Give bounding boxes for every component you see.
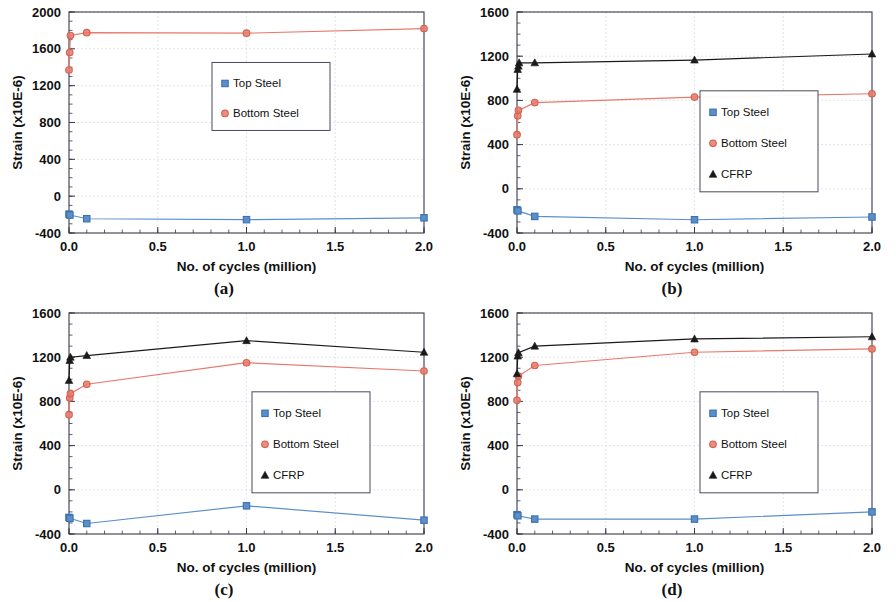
svg-text:0.0: 0.0 — [508, 239, 526, 254]
svg-text:1.0: 1.0 — [685, 239, 703, 254]
svg-text:400: 400 — [39, 438, 61, 453]
svg-text:0.0: 0.0 — [508, 540, 526, 555]
svg-text:0.5: 0.5 — [149, 540, 167, 555]
svg-text:-400: -400 — [35, 527, 61, 542]
svg-text:Top Steel: Top Steel — [233, 77, 281, 89]
svg-text:0.5: 0.5 — [597, 540, 615, 555]
svg-text:2.0: 2.0 — [415, 540, 433, 555]
svg-text:1600: 1600 — [480, 5, 509, 20]
svg-text:0.0: 0.0 — [60, 540, 78, 555]
svg-text:0: 0 — [54, 189, 61, 204]
svg-text:400: 400 — [487, 438, 509, 453]
svg-text:1200: 1200 — [32, 350, 61, 365]
svg-text:1.5: 1.5 — [774, 239, 792, 254]
svg-text:0: 0 — [54, 482, 61, 497]
svg-text:2.0: 2.0 — [863, 239, 881, 254]
svg-text:No. of cycles (million): No. of cycles (million) — [177, 259, 317, 274]
svg-text:No. of cycles (million): No. of cycles (million) — [177, 560, 317, 575]
svg-text:No. of cycles (million): No. of cycles (million) — [625, 259, 765, 274]
svg-text:Strain (x10E-6): Strain (x10E-6) — [458, 376, 473, 471]
svg-text:-400: -400 — [483, 226, 509, 241]
svg-text:0.5: 0.5 — [149, 239, 167, 254]
svg-text:Bottom Steel: Bottom Steel — [233, 107, 299, 119]
svg-text:2000: 2000 — [32, 5, 61, 20]
svg-text:1.5: 1.5 — [774, 540, 792, 555]
svg-text:Top Steel: Top Steel — [721, 106, 769, 118]
svg-text:400: 400 — [487, 137, 509, 152]
panel-b-plot: -4000400800120016000.00.51.01.52.0No. of… — [448, 0, 896, 301]
svg-text:Top Steel: Top Steel — [721, 407, 769, 419]
svg-text:1600: 1600 — [32, 41, 61, 56]
panel-c-plot: -4000400800120016000.00.51.01.52.0No. of… — [0, 301, 448, 602]
svg-text:800: 800 — [487, 394, 509, 409]
svg-text:1.0: 1.0 — [237, 239, 255, 254]
svg-text:1600: 1600 — [480, 306, 509, 321]
panel-a-plot: -40004008001200160020000.00.51.01.52.0No… — [0, 0, 448, 301]
svg-text:CFRP: CFRP — [721, 168, 753, 180]
svg-text:Strain (x10E-6): Strain (x10E-6) — [10, 75, 25, 170]
svg-text:Bottom Steel: Bottom Steel — [721, 438, 787, 450]
svg-text:No. of cycles (million): No. of cycles (million) — [625, 560, 765, 575]
svg-text:2.0: 2.0 — [863, 540, 881, 555]
panel-c: -4000400800120016000.00.51.01.52.0No. of… — [0, 301, 448, 602]
svg-text:CFRP: CFRP — [273, 469, 305, 481]
svg-text:0.0: 0.0 — [60, 239, 78, 254]
svg-text:0: 0 — [502, 482, 509, 497]
svg-text:0.5: 0.5 — [597, 239, 615, 254]
svg-text:Strain (x10E-6): Strain (x10E-6) — [458, 75, 473, 170]
svg-text:Top Steel: Top Steel — [273, 407, 321, 419]
svg-text:1.5: 1.5 — [326, 239, 344, 254]
svg-text:Bottom Steel: Bottom Steel — [721, 137, 787, 149]
panel-a: -40004008001200160020000.00.51.01.52.0No… — [0, 0, 448, 301]
svg-text:1200: 1200 — [32, 78, 61, 93]
svg-text:400: 400 — [39, 152, 61, 167]
svg-text:1200: 1200 — [480, 350, 509, 365]
panel-a-caption: (a) — [0, 279, 448, 299]
svg-text:-400: -400 — [483, 527, 509, 542]
svg-text:1600: 1600 — [32, 306, 61, 321]
panel-d: -4000400800120016000.00.51.01.52.0No. of… — [448, 301, 896, 602]
svg-text:1.0: 1.0 — [237, 540, 255, 555]
panel-c-caption: (c) — [0, 580, 448, 600]
panel-d-caption: (d) — [448, 580, 896, 600]
svg-text:-400: -400 — [35, 226, 61, 241]
panel-b: -4000400800120016000.00.51.01.52.0No. of… — [448, 0, 896, 301]
svg-text:Strain (x10E-6): Strain (x10E-6) — [10, 376, 25, 471]
panel-b-caption: (b) — [448, 279, 896, 299]
svg-text:1.0: 1.0 — [685, 540, 703, 555]
svg-text:2.0: 2.0 — [415, 239, 433, 254]
strain-vs-cycles-figure: -40004008001200160020000.00.51.01.52.0No… — [0, 0, 896, 602]
svg-text:Bottom Steel: Bottom Steel — [273, 438, 339, 450]
panel-d-plot: -4000400800120016000.00.51.01.52.0No. of… — [448, 301, 896, 602]
svg-text:1.5: 1.5 — [326, 540, 344, 555]
svg-text:800: 800 — [487, 93, 509, 108]
svg-text:800: 800 — [39, 115, 61, 130]
svg-text:CFRP: CFRP — [721, 469, 753, 481]
svg-text:800: 800 — [39, 394, 61, 409]
svg-text:0: 0 — [502, 181, 509, 196]
svg-text:1200: 1200 — [480, 49, 509, 64]
